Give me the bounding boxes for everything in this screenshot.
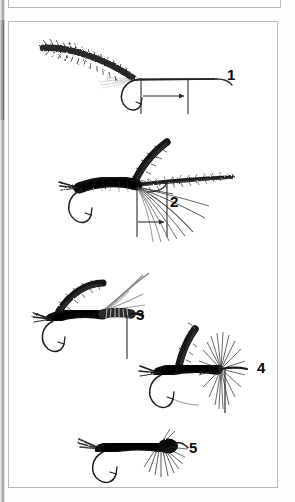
dubbed-body [101,445,163,450]
wing-case [59,280,103,311]
hook [69,190,92,222]
figure-4: 4 [137,317,277,417]
hook [121,79,232,110]
head [221,368,247,370]
wing-case [177,323,197,365]
dubbed-body [51,312,103,319]
panel-above-cutoff [8,0,281,8]
figure-4-number: 4 [257,360,265,375]
figure-5-number: 5 [189,440,197,455]
figure-4-artwork [137,317,277,417]
figure-1-number: 1 [227,67,235,82]
hook [150,375,199,407]
measure-arrow [138,219,164,224]
figure-5-artwork [71,427,201,487]
figure-2-artwork [55,132,270,247]
illustration-frame: 1 [8,21,278,488]
figure-2: 2 [55,132,270,247]
figure-5: 5 [71,427,201,487]
figure-2-number: 2 [170,194,178,209]
figure-1-artwork [29,34,244,124]
hook [42,321,65,351]
measure-arrow [143,93,184,98]
thread-wrap [137,79,215,80]
hackle-legs [144,429,187,477]
fiber-bundle [43,39,133,81]
figure-1: 1 [29,34,244,124]
dubbed-body [79,180,137,192]
fiber-wing [135,173,233,191]
scan-edge-artifact-dark [0,20,5,120]
hook [93,452,117,482]
page-background: 1 [0,0,295,502]
